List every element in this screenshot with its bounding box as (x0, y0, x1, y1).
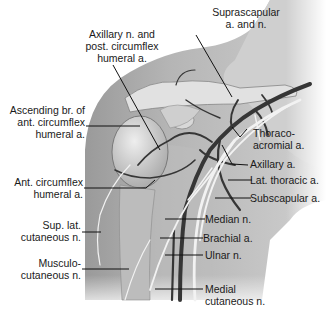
label-thoracoacromial: Thoraco- acromial a. (253, 127, 304, 151)
label-musculocutaneous: Musculo- cutaneous n. (0, 257, 81, 281)
label-ascending-br: Ascending br. of ant. circumflex humeral… (0, 104, 85, 140)
label-sup-lat-cutaneous: Sup. lat. cutaneous n. (0, 219, 81, 243)
label-medial-cutaneous: Medial cutaneous n. (205, 283, 265, 307)
label-ulnar-n: Ulnar n. (205, 249, 242, 261)
label-suprascapular: Suprascapular a. and n. (196, 6, 296, 30)
label-axillary-n-post-circumflex: Axillary n. and post. circumflex humeral… (72, 28, 172, 64)
label-axillary-a: Axillary a. (250, 158, 296, 170)
label-lat-thoracic: Lat. thoracic a. (250, 174, 319, 186)
label-brachial-a: Brachial a. (203, 232, 253, 244)
label-ant-circumflex: Ant. circumflex humeral a. (0, 176, 83, 200)
label-subscapular: Subscapular a. (250, 192, 320, 204)
label-median-n: Median n. (205, 213, 251, 225)
